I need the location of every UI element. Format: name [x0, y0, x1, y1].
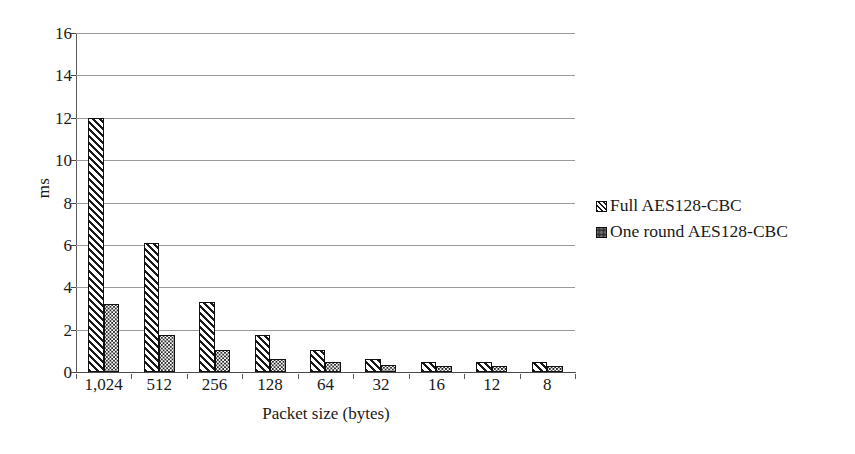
- y-axis-tick-label: 14: [38, 67, 72, 84]
- y-axis-tick-label: 0: [38, 364, 72, 381]
- x-axis-tickmark: [353, 374, 354, 379]
- y-axis-tick-label: 10: [38, 152, 72, 169]
- bar-group: [187, 33, 242, 372]
- y-axis-tick-labels: 0246810121416: [34, 0, 72, 454]
- legend-item-label: One round AES128-CBC: [610, 223, 788, 241]
- hatch-swatch-icon: [596, 201, 607, 212]
- y-axis-tickmark: [71, 372, 76, 373]
- x-axis-tick-label: 16: [409, 375, 464, 395]
- x-axis-tickmark: [575, 374, 576, 379]
- legend-item-label: Full AES128-CBC: [610, 197, 742, 215]
- bar: [104, 304, 120, 372]
- bar: [365, 359, 381, 372]
- x-axis-tickmark: [464, 374, 465, 379]
- bar: [199, 302, 215, 372]
- bar: [421, 362, 437, 372]
- y-axis-tick-label: 6: [38, 236, 72, 253]
- x-axis-tickmark: [187, 374, 188, 379]
- y-axis-tick-label: 8: [38, 194, 72, 211]
- bar-group: [409, 33, 464, 372]
- bar-group: [464, 33, 519, 372]
- bar: [159, 335, 175, 372]
- chart-legend: Full AES128-CBCOne round AES128-CBC: [596, 193, 852, 245]
- x-axis-tickmark: [409, 374, 410, 379]
- bar: [547, 366, 563, 372]
- x-axis-line: [76, 372, 576, 373]
- y-axis-tick-label: 16: [38, 25, 72, 42]
- x-axis-tickmark: [131, 374, 132, 379]
- bar-group: [520, 33, 575, 372]
- x-axis-tick-label: 8: [520, 375, 575, 395]
- legend-item: One round AES128-CBC: [596, 219, 852, 245]
- x-axis-tickmark: [520, 374, 521, 379]
- x-axis-tickmark: [298, 374, 299, 379]
- x-axis-tickmark: [76, 374, 77, 379]
- dots-swatch-icon: [596, 227, 607, 238]
- bar: [144, 243, 160, 372]
- bar-group: [76, 33, 131, 372]
- x-axis-tickmark: [242, 374, 243, 379]
- y-axis-tick-label: 4: [38, 279, 72, 296]
- x-axis-title: Packet size (bytes): [76, 404, 576, 424]
- bar-group: [353, 33, 408, 372]
- x-axis-tick-label: 128: [242, 375, 297, 395]
- x-axis-tick-label: 512: [131, 375, 186, 395]
- x-axis-tick-label: 64: [298, 375, 353, 395]
- bar: [381, 365, 397, 372]
- bar: [436, 366, 452, 372]
- bar-group: [298, 33, 353, 372]
- x-axis-tick-labels: 1,024512256128643216128: [76, 375, 576, 405]
- bar: [270, 359, 286, 372]
- y-axis-tick-label: 2: [38, 321, 72, 338]
- x-axis-tick-label: 12: [464, 375, 519, 395]
- x-axis-tick-label: 256: [187, 375, 242, 395]
- x-axis-tick-label: 32: [353, 375, 408, 395]
- legend-item: Full AES128-CBC: [596, 193, 852, 219]
- bar-chart: ms 0246810121416 1,024512256128643216128…: [0, 0, 855, 454]
- bar: [215, 350, 231, 372]
- x-axis-tick-label: 1,024: [76, 375, 131, 395]
- plot-area: [76, 33, 575, 372]
- bar: [255, 335, 271, 372]
- bar: [325, 362, 341, 372]
- bar-group: [242, 33, 297, 372]
- bar: [532, 362, 548, 372]
- bar: [310, 350, 326, 372]
- bar: [476, 362, 492, 372]
- bar: [492, 366, 508, 372]
- bar: [88, 118, 104, 372]
- bar-group: [131, 33, 186, 372]
- y-axis-tick-label: 12: [38, 109, 72, 126]
